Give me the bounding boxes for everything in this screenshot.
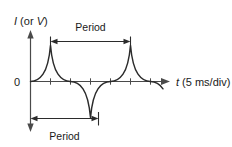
x-axis-arrow-right bbox=[161, 78, 170, 85]
y-axis-label-rest: (or bbox=[17, 15, 37, 27]
y-axis-label: I (or V) bbox=[14, 15, 48, 27]
y-axis-label-close: ) bbox=[44, 15, 48, 27]
x-axis-label-rest: (5 ms/div) bbox=[179, 76, 230, 88]
period-annotation-bottom bbox=[31, 112, 99, 126]
period-top-label: Period bbox=[75, 21, 106, 33]
period-top-arrow-right bbox=[124, 39, 131, 44]
x-axis-label: t (5 ms/div) bbox=[176, 76, 230, 88]
waveform-figure: I (or V) 0 t (5 ms/div) Period Period bbox=[0, 0, 232, 147]
period-bottom-arrow-right bbox=[92, 116, 99, 121]
y-axis-arrow-down bbox=[27, 124, 33, 133]
waveform-svg: I (or V) 0 t (5 ms/div) Period Period bbox=[0, 0, 232, 147]
period-bottom-label: Period bbox=[49, 130, 80, 142]
period-top-arrow-left bbox=[51, 39, 58, 44]
period-annotation-top bbox=[51, 37, 131, 51]
period-bottom-arrow-left bbox=[31, 116, 38, 121]
origin-label: 0 bbox=[14, 76, 20, 88]
y-axis-arrow-up bbox=[27, 30, 33, 39]
